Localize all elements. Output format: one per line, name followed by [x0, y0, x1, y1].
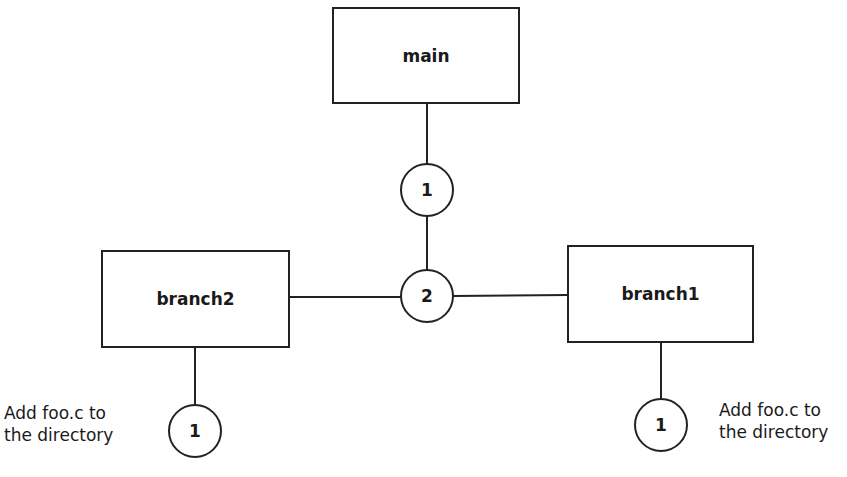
branch2-box: branch2	[101, 250, 290, 348]
edge-node2-to-branch1	[453, 295, 568, 296]
annotation-line-1: Add foo.c to	[4, 402, 113, 424]
annotation-line-2: the directory	[719, 421, 828, 443]
branch2-annotation: Add foo.c to the directory	[4, 402, 113, 446]
annotation-line-2: the directory	[4, 424, 113, 446]
annotation-line-1: Add foo.c to	[719, 399, 828, 421]
branch1-label: branch1	[621, 284, 699, 304]
main-branch-box: main	[332, 7, 520, 104]
branch1-box: branch1	[567, 245, 754, 343]
main-commit-node-1: 1	[400, 163, 454, 217]
node-label: 1	[421, 180, 433, 200]
main-branch-label: main	[402, 46, 449, 66]
node-label: 2	[421, 286, 433, 306]
branch1-commit-node-1: 1	[634, 398, 688, 452]
branch2-commit-node-1: 1	[168, 404, 222, 458]
merge-node-2: 2	[400, 269, 454, 323]
branch2-label: branch2	[156, 289, 234, 309]
node-label: 1	[655, 415, 667, 435]
node-label: 1	[189, 421, 201, 441]
branch1-annotation: Add foo.c to the directory	[719, 399, 828, 443]
